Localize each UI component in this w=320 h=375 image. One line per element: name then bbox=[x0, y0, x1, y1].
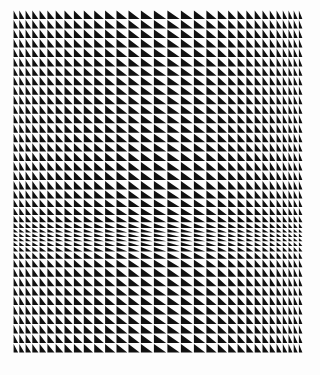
op-art-triangle-grid bbox=[13, 10, 303, 353]
